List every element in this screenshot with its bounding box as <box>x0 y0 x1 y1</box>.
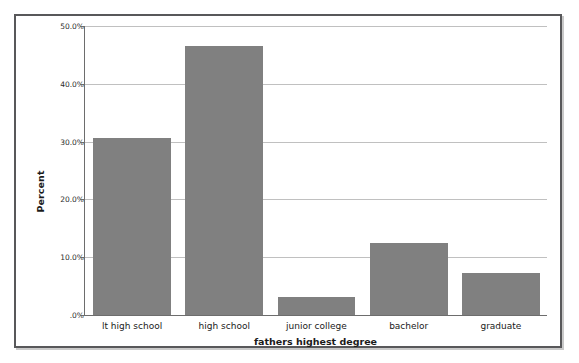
y-axis-tick-label: 20.0% <box>42 195 84 204</box>
y-axis-tick-label: .0% <box>42 311 84 320</box>
x-axis-tick-label: high school <box>178 321 270 331</box>
x-axis-tick-label: junior college <box>270 321 362 331</box>
y-axis-tick-label: 40.0% <box>42 79 84 88</box>
bar[interactable] <box>462 273 540 315</box>
y-axis-tick-labels: .0%10.0%20.0%30.0%40.0%50.0% <box>40 16 84 350</box>
x-axis-tick-label: graduate <box>455 321 547 331</box>
chart-frame: Percent .0%10.0%20.0%30.0%40.0%50.0% lt … <box>14 14 562 348</box>
x-axis-line <box>84 315 547 316</box>
plot-area <box>84 26 547 316</box>
bar[interactable] <box>185 46 263 315</box>
x-axis-tick-label: lt high school <box>86 321 178 331</box>
y-axis-tick-label: 30.0% <box>42 137 84 146</box>
x-axis-title: fathers highest degree <box>84 336 547 347</box>
x-axis-tick-labels: lt high schoolhigh schooljunior collegeb… <box>84 319 547 337</box>
y-axis-tick-label: 50.0% <box>42 22 84 31</box>
bar[interactable] <box>93 138 171 315</box>
y-axis-tick-label: 10.0% <box>42 253 84 262</box>
x-axis-tick-label: bachelor <box>363 321 455 331</box>
bar-series <box>84 26 547 316</box>
y-axis-line <box>84 26 85 316</box>
bar[interactable] <box>278 297 356 315</box>
bar[interactable] <box>370 243 448 315</box>
